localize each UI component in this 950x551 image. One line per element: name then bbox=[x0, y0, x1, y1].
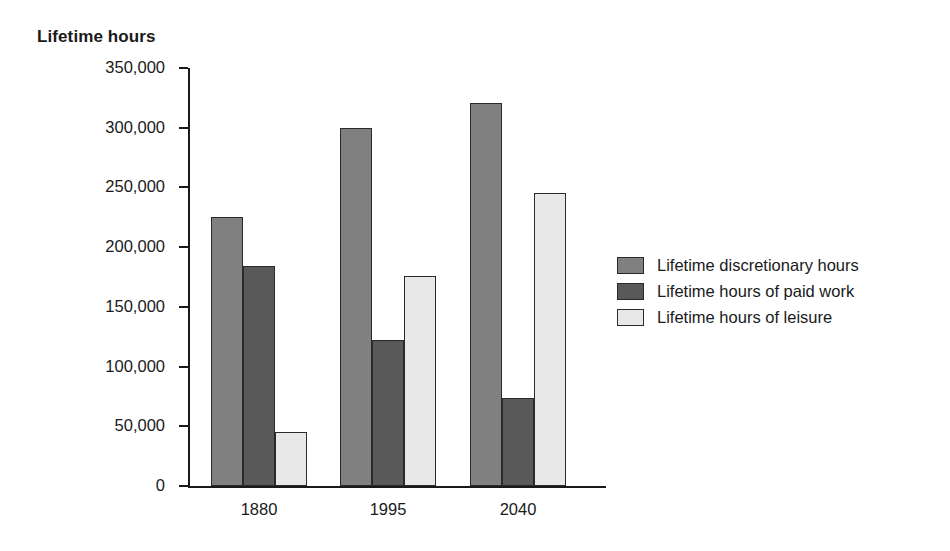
bar bbox=[502, 398, 534, 486]
legend-item: Lifetime hours of paid work bbox=[617, 279, 859, 303]
bar bbox=[372, 340, 404, 486]
y-axis-title: Lifetime hours bbox=[37, 27, 156, 47]
legend-item: Lifetime hours of leisure bbox=[617, 305, 859, 329]
y-axis-tick: 50,000 bbox=[179, 425, 188, 427]
y-axis-tick-label: 50,000 bbox=[115, 416, 165, 435]
y-axis-tick-label: 0 bbox=[156, 476, 165, 495]
y-axis-tick: 200,000 bbox=[179, 246, 188, 248]
x-axis-group-label: 2040 bbox=[500, 500, 537, 519]
y-axis-line bbox=[188, 68, 190, 486]
y-axis-tick-label: 200,000 bbox=[105, 237, 165, 256]
y-axis-tick-label: 250,000 bbox=[105, 177, 165, 196]
bar bbox=[404, 276, 436, 486]
x-axis-line bbox=[188, 486, 606, 488]
y-axis-tick-label: 100,000 bbox=[105, 356, 165, 375]
bar bbox=[211, 217, 243, 486]
legend-item: Lifetime discretionary hours bbox=[617, 253, 859, 277]
legend-swatch-icon bbox=[617, 283, 644, 300]
y-axis-tick: 300,000 bbox=[179, 127, 188, 129]
plot-area: 050,000100,000150,000200,000250,000300,0… bbox=[188, 68, 606, 488]
y-axis-tick: 100,000 bbox=[179, 366, 188, 368]
y-axis-tick: 150,000 bbox=[179, 306, 188, 308]
legend-swatch-icon bbox=[617, 257, 644, 274]
chart-legend: Lifetime discretionary hoursLifetime hou… bbox=[617, 253, 859, 331]
y-axis-tick-label: 150,000 bbox=[105, 296, 165, 315]
y-axis-tick: 250,000 bbox=[179, 186, 188, 188]
legend-item-label: Lifetime hours of leisure bbox=[657, 308, 832, 327]
y-axis-tick: 350,000 bbox=[179, 67, 188, 69]
legend-item-label: Lifetime discretionary hours bbox=[657, 256, 859, 275]
legend-swatch-icon bbox=[617, 309, 644, 326]
y-axis-tick-label: 350,000 bbox=[105, 58, 165, 77]
bar bbox=[275, 432, 307, 486]
y-axis-tick: 0 bbox=[179, 485, 188, 487]
bar-chart: Lifetime hours 050,000100,000150,000200,… bbox=[0, 0, 950, 551]
bar bbox=[470, 103, 502, 486]
bar bbox=[243, 266, 275, 486]
x-axis-group-label: 1995 bbox=[370, 500, 407, 519]
bar bbox=[534, 193, 566, 486]
x-axis-group-label: 1880 bbox=[241, 500, 278, 519]
legend-item-label: Lifetime hours of paid work bbox=[657, 282, 854, 301]
y-axis-tick-label: 300,000 bbox=[105, 117, 165, 136]
bar bbox=[340, 128, 372, 486]
